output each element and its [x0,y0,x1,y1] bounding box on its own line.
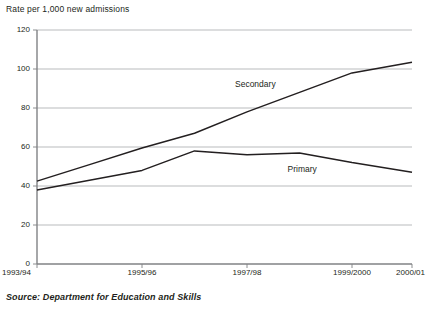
series-line-primary [37,151,412,190]
y-axis-tick-label: 80 [4,103,30,112]
y-axis-tick-label: 120 [4,25,30,34]
x-axis-tick-label: 1993/94 [2,268,31,277]
chart-plot-area [0,0,427,311]
series-label-primary: Primary [288,164,317,174]
gridlines-group [37,30,412,225]
y-axis-tick-label: 40 [4,181,30,190]
x-axis-tick-label: 1999/2000 [333,268,371,277]
y-axis-tick-label: 0 [4,259,30,268]
x-tick-marks-group [33,30,412,268]
y-axis-tick-label: 60 [4,142,30,151]
x-axis-tick-label: 2000/01 [396,268,425,277]
series-label-secondary: Secondary [235,79,276,89]
source-note: Source: Department for Education and Ski… [6,292,201,302]
x-axis-tick-label: 1995/96 [128,268,157,277]
x-axis-tick-label: 1997/98 [233,268,262,277]
chart-container: Rate per 1,000 new admissions 0204060801… [0,0,427,311]
data-series-group [37,62,412,190]
y-axis-tick-label: 20 [4,220,30,229]
y-axis-tick-label: 100 [4,64,30,73]
